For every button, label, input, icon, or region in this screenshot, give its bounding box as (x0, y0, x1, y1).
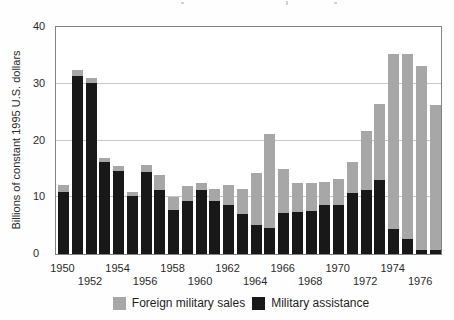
bar-1959-military-assistance (182, 201, 193, 254)
bar-1971-military-assistance (347, 193, 358, 254)
bar-1956-foreign-military-sales (141, 165, 152, 172)
x-tick-1976: 1976 (403, 275, 437, 287)
bar-1969-foreign-military-sales (319, 182, 330, 205)
bar-1956 (141, 165, 152, 254)
bar-1968-foreign-military-sales (306, 183, 317, 211)
bar-1963-military-assistance (237, 214, 248, 254)
bar-1950-foreign-military-sales (58, 185, 69, 192)
bar-1957 (154, 175, 165, 254)
bar-1950-military-assistance (58, 192, 69, 254)
bar-1963 (237, 189, 248, 254)
bar-1975-foreign-military-sales (402, 54, 413, 240)
legend-label-foreign-military-sales: Foreign military sales (132, 296, 245, 310)
bar-1977-foreign-military-sales (430, 105, 441, 250)
y-tick-10: 10 (33, 190, 55, 203)
bar-1967-military-assistance (292, 212, 303, 254)
bar-1959 (182, 186, 193, 254)
y-tick-0: 0 (33, 247, 55, 260)
bar-1958 (168, 197, 179, 254)
bar-1977 (430, 105, 441, 254)
bar-1955 (127, 192, 138, 254)
bar-1973-military-assistance (374, 180, 385, 254)
bar-1966 (278, 169, 289, 254)
bar-1966-foreign-military-sales (278, 169, 289, 213)
bar-1966-military-assistance (278, 213, 289, 254)
y-axis-title: Billions of constant 1995 U.S. dollars (10, 50, 22, 229)
bar-1958-military-assistance (168, 210, 179, 254)
x-tick-1970: 1970 (321, 262, 355, 274)
bar-1972-foreign-military-sales (361, 131, 372, 190)
x-tick-1974: 1974 (376, 262, 410, 274)
bar-1972 (361, 131, 372, 254)
bar-1974-foreign-military-sales (388, 54, 399, 229)
bar-1954-military-assistance (113, 171, 124, 254)
bar-1961 (209, 189, 220, 254)
x-tick-1958: 1958 (156, 262, 190, 274)
bar-1976-military-assistance (416, 250, 427, 254)
bar-1962 (223, 185, 234, 254)
legend: Foreign military sales Military assistan… (0, 295, 454, 311)
bar-1960-military-assistance (196, 190, 207, 254)
bar-1975 (402, 54, 413, 254)
bar-1964-military-assistance (251, 225, 262, 255)
bar-1977-military-assistance (430, 250, 441, 254)
bar-1957-foreign-military-sales (154, 175, 165, 190)
bar-1974-military-assistance (388, 229, 399, 254)
bar-1965-military-assistance (264, 228, 275, 254)
bar-1970-foreign-military-sales (333, 179, 344, 205)
bar-1958-foreign-military-sales (168, 197, 179, 210)
x-tick-1950: 1950 (46, 262, 80, 274)
bar-1973 (374, 104, 385, 254)
bar-1968 (306, 183, 317, 254)
bar-1965 (264, 134, 275, 254)
bar-1967 (292, 183, 303, 254)
bar-1974 (388, 54, 399, 254)
scan-artifact (286, 1, 288, 5)
bar-1950 (58, 185, 69, 254)
bar-1961-foreign-military-sales (209, 189, 220, 201)
bar-1953 (99, 158, 110, 254)
bar-1952 (86, 78, 97, 254)
x-tick-1960: 1960 (183, 275, 217, 287)
bar-1959-foreign-military-sales (182, 186, 193, 201)
bar-1956-military-assistance (141, 172, 152, 254)
y-tick-30: 30 (33, 77, 55, 90)
bar-1965-foreign-military-sales (264, 134, 275, 228)
x-tick-1972: 1972 (348, 275, 382, 287)
figure: Billions of constant 1995 U.S. dollars 0… (0, 0, 454, 320)
bar-1973-foreign-military-sales (374, 104, 385, 181)
bar-1957-military-assistance (154, 190, 165, 254)
bar-1960 (196, 183, 207, 254)
bar-1962-military-assistance (223, 205, 234, 254)
y-tick-40: 40 (33, 20, 55, 33)
bar-1971 (347, 162, 358, 254)
bar-1964-foreign-military-sales (251, 173, 262, 224)
bar-1968-military-assistance (306, 211, 317, 254)
bar-1951 (72, 70, 83, 254)
bar-1961-military-assistance (209, 201, 220, 254)
scan-artifact (181, 2, 184, 4)
legend-item-military-assistance: Military assistance (252, 296, 369, 310)
foreign-military-sales-swatch-icon (113, 297, 126, 310)
plot-area (55, 26, 442, 255)
bar-1962-foreign-military-sales (223, 185, 234, 205)
x-tick-1956: 1956 (128, 275, 162, 287)
military-assistance-swatch-icon (252, 297, 265, 310)
bar-1975-military-assistance (402, 239, 413, 254)
bar-1971-foreign-military-sales (347, 162, 358, 194)
bar-1963-foreign-military-sales (237, 189, 248, 214)
bar-1969 (319, 182, 330, 254)
x-tick-1968: 1968 (293, 275, 327, 287)
scan-artifact (334, 2, 337, 4)
bar-1955-military-assistance (127, 196, 138, 254)
bar-1953-military-assistance (99, 162, 110, 254)
legend-label-military-assistance: Military assistance (271, 296, 369, 310)
x-tick-1964: 1964 (238, 275, 272, 287)
bar-1960-foreign-military-sales (196, 183, 207, 190)
x-tick-1966: 1966 (266, 262, 300, 274)
x-tick-1952: 1952 (73, 275, 107, 287)
bar-1970-military-assistance (333, 205, 344, 254)
legend-item-foreign-military-sales: Foreign military sales (113, 296, 245, 310)
y-tick-20: 20 (33, 134, 55, 147)
bar-1954 (113, 166, 124, 254)
